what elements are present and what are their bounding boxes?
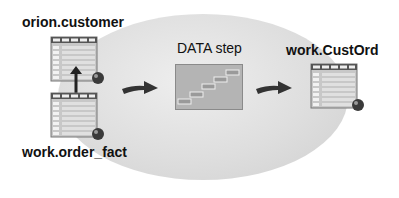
source-label-orion-customer: orion.customer: [22, 14, 124, 30]
data-step-icon: [175, 64, 243, 110]
source-label-order-fact: work.order_fact: [22, 144, 127, 160]
flow-arrow-icon: [122, 80, 158, 96]
flow-arrow-icon: [256, 80, 292, 96]
table-icon-order-fact: [50, 92, 106, 142]
process-label: DATA step: [177, 40, 242, 56]
table-icon-custord: [310, 63, 366, 113]
output-label-custord: work.CustOrd: [286, 42, 379, 58]
